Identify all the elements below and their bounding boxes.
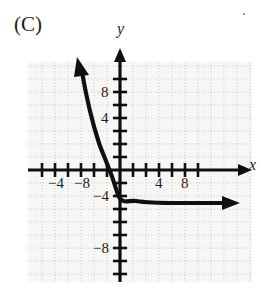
x-tick-label-8: 8 xyxy=(181,176,189,191)
y-tick-label-8: 8 xyxy=(101,85,109,100)
y-tick-label-4: 4 xyxy=(101,111,109,126)
x-tick-label-neg8: −8 xyxy=(74,176,90,191)
coordinate-plane xyxy=(0,0,271,294)
page-speck xyxy=(243,13,245,15)
x-tick-label-neg4: −4 xyxy=(48,176,64,191)
part-label: (C) xyxy=(14,14,42,35)
y-tick-label-neg4: −4 xyxy=(93,189,109,204)
y-axis-label: y xyxy=(117,21,124,37)
x-tick-label-4: 4 xyxy=(155,176,163,191)
graph-figure: (C) xyxy=(0,0,271,294)
y-axis-arrowhead xyxy=(114,48,126,62)
y-tick-label-neg8: −8 xyxy=(93,241,109,256)
plot-background xyxy=(28,62,252,282)
x-axis-label: x xyxy=(249,157,256,173)
